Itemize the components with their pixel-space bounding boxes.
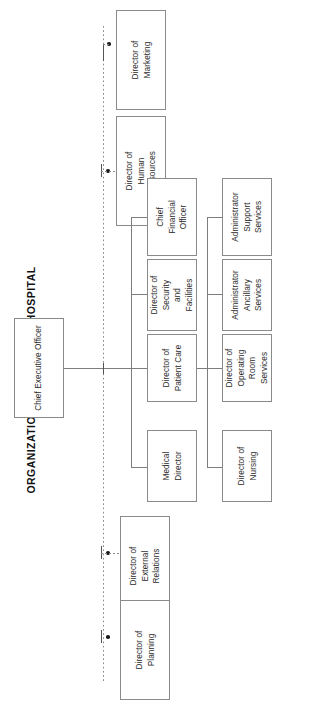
staff-dotted-spine bbox=[103, 26, 104, 682]
staff-dotted-link-marketing bbox=[103, 44, 109, 45]
connector-ceo-trunk bbox=[64, 368, 132, 369]
node-label-director-of-nursing: Director ofNursing bbox=[236, 447, 259, 486]
staff-branch-tick-planning bbox=[101, 630, 102, 643]
staff-junction-dot-planning bbox=[106, 635, 110, 639]
patient-care-sub-spine bbox=[207, 217, 208, 467]
connector-branch-director-of-security-and-facilities bbox=[131, 294, 147, 295]
staff-dotted-link-external-relations bbox=[101, 553, 121, 554]
node-label-director-of-patient-care: Director ofPatient Care bbox=[161, 345, 184, 392]
connector-branch-director-of-patient-care bbox=[131, 368, 147, 369]
node-director-of-security-and-facilities[interactable]: Director ofSecurityandFacilities bbox=[147, 259, 197, 331]
connector-branch-administrator-support-services bbox=[207, 217, 222, 218]
node-administrator-support-services[interactable]: AdministratorSupportServices bbox=[222, 178, 272, 256]
connector-branch-director-of-nursing bbox=[207, 467, 222, 468]
node-director-of-planning[interactable]: Director ofPlanning bbox=[120, 600, 170, 700]
connector-ceo-spine-crossing bbox=[103, 363, 104, 374]
connector-branch-chief-financial-officer bbox=[131, 217, 147, 218]
node-label-administrator-support-services: AdministratorSupportServices bbox=[230, 192, 265, 242]
node-label-chief-financial-officer: ChiefFinancialOfficer bbox=[155, 200, 190, 234]
node-director-of-patient-care[interactable]: Director ofPatient Care bbox=[147, 334, 197, 402]
connector-branch-medical-director bbox=[131, 467, 147, 468]
node-chief-financial-officer[interactable]: ChiefFinancialOfficer bbox=[147, 178, 197, 256]
staff-branch-tick-marketing bbox=[103, 44, 104, 61]
node-label-director-of-external-relations: Director ofExternalRelations bbox=[128, 547, 163, 586]
connector-branch-director-of-operating-room-services bbox=[207, 368, 222, 369]
connector-branch-administrator-ancillary-services bbox=[207, 294, 222, 295]
node-label-director-of-operating-room-services: Director ofOperatingRoomServices bbox=[224, 349, 270, 388]
node-label-chief-executive-officer: Chief Executive Officer bbox=[33, 325, 45, 410]
node-medical-director[interactable]: MedicalDirector bbox=[147, 430, 197, 502]
node-label-director-of-security-and-facilities: Director ofSecurityandFacilities bbox=[149, 276, 195, 315]
node-director-of-operating-room-services[interactable]: Director ofOperatingRoomServices bbox=[222, 334, 272, 402]
node-chief-executive-officer[interactable]: Chief Executive Officer bbox=[14, 318, 64, 418]
line-director-spine bbox=[131, 217, 132, 467]
org-chart-canvas: ORGANIZATION OF A MODERN HOSPITAL Chief … bbox=[0, 0, 311, 711]
node-director-of-marketing[interactable]: Director ofMarketing bbox=[116, 10, 166, 110]
node-director-of-nursing[interactable]: Director ofNursing bbox=[222, 430, 272, 502]
node-label-medical-director: MedicalDirector bbox=[161, 451, 184, 480]
node-label-administrator-ancillary-services: AdministratorAncillaryServices bbox=[230, 270, 265, 320]
node-label-director-of-planning: Director ofPlanning bbox=[134, 631, 157, 670]
node-administrator-ancillary-services[interactable]: AdministratorAncillaryServices bbox=[222, 259, 272, 331]
node-label-director-of-marketing: Director ofMarketing bbox=[130, 41, 153, 80]
staff-dotted-link-human-resources bbox=[101, 171, 117, 172]
